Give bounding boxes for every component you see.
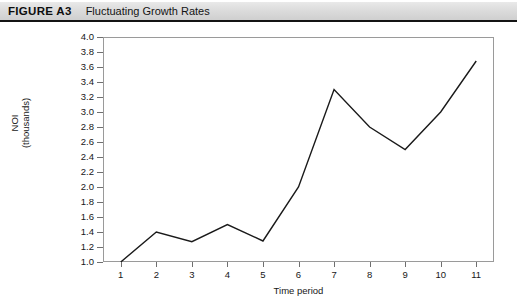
x-tick-mark xyxy=(227,262,228,267)
x-tick-label: 4 xyxy=(217,270,237,280)
y-tick-label: 1.0 xyxy=(81,257,94,267)
y-tick-mark xyxy=(97,232,103,233)
y-tick-mark xyxy=(97,172,103,173)
y-tick-mark xyxy=(97,217,103,218)
y-tick-label: 2.2 xyxy=(81,167,94,177)
y-tick-label: 3.2 xyxy=(81,92,94,102)
line-chart-plot xyxy=(103,37,494,262)
y-tick-mark xyxy=(97,247,103,248)
x-tick-label: 5 xyxy=(253,270,273,280)
y-tick-mark xyxy=(97,112,103,113)
y-tick-label: 3.4 xyxy=(81,77,94,87)
y-tick-mark xyxy=(97,82,103,83)
y-tick-mark xyxy=(97,262,103,263)
x-tick-mark xyxy=(334,262,335,267)
figure-header-bar: FIGURE A3 Fluctuating Growth Rates xyxy=(0,2,517,22)
x-tick-label: 10 xyxy=(431,270,451,280)
x-tick-mark xyxy=(476,262,477,267)
x-tick-mark xyxy=(263,262,264,267)
x-axis-title: Time period xyxy=(103,285,494,296)
x-tick-label: 6 xyxy=(289,270,309,280)
data-series-line xyxy=(121,61,476,262)
y-axis-title: NOI (thousands) xyxy=(9,75,31,171)
y-tick-label: 2.8 xyxy=(81,122,94,132)
y-tick-mark xyxy=(97,202,103,203)
y-tick-label: 1.4 xyxy=(81,227,94,237)
y-tick-mark xyxy=(97,127,103,128)
y-tick-label: 2.0 xyxy=(81,182,94,192)
y-tick-mark xyxy=(97,142,103,143)
x-tick-label: 11 xyxy=(466,270,486,280)
y-tick-mark xyxy=(97,97,103,98)
y-tick-label: 3.6 xyxy=(81,62,94,72)
y-tick-label: 2.6 xyxy=(81,137,94,147)
y-tick-mark xyxy=(97,52,103,53)
x-tick-mark xyxy=(156,262,157,267)
x-tick-mark xyxy=(405,262,406,267)
y-tick-label: 3.0 xyxy=(81,107,94,117)
y-tick-label: 1.2 xyxy=(81,242,94,252)
y-tick-label: 2.4 xyxy=(81,152,94,162)
x-tick-label: 1 xyxy=(111,270,131,280)
figure-number-label: FIGURE A3 xyxy=(8,5,72,17)
y-axis-tick-labels: 4.03.83.63.43.23.02.82.62.42.22.01.81.61… xyxy=(60,24,100,275)
x-tick-label: 3 xyxy=(182,270,202,280)
x-tick-mark xyxy=(192,262,193,267)
y-tick-mark xyxy=(97,157,103,158)
x-tick-label: 8 xyxy=(360,270,380,280)
x-tick-mark xyxy=(441,262,442,267)
x-tick-mark xyxy=(370,262,371,267)
y-tick-label: 3.8 xyxy=(81,47,94,57)
y-axis-title-line1: NOI xyxy=(9,75,20,171)
x-tick-label: 7 xyxy=(324,270,344,280)
y-tick-mark xyxy=(97,67,103,68)
chart-area: 4.03.83.63.43.23.02.82.62.42.22.01.81.61… xyxy=(0,24,517,307)
x-tick-mark xyxy=(121,262,122,267)
figure-title: Fluctuating Growth Rates xyxy=(86,5,210,17)
y-tick-label: 1.8 xyxy=(81,197,94,207)
y-tick-mark xyxy=(97,37,103,38)
y-axis-title-line2: (thousands) xyxy=(20,75,31,171)
x-tick-label: 2 xyxy=(146,270,166,280)
x-tick-label: 9 xyxy=(395,270,415,280)
y-tick-label: 4.0 xyxy=(81,32,94,42)
y-tick-label: 1.6 xyxy=(81,212,94,222)
x-tick-mark xyxy=(299,262,300,267)
y-tick-mark xyxy=(97,187,103,188)
